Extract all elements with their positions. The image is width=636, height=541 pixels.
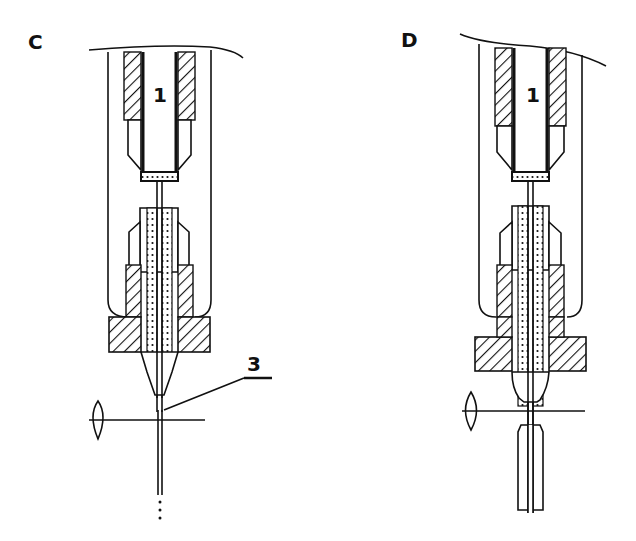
label-1-c: 1 — [153, 83, 167, 107]
label-3-c: 3 — [247, 352, 261, 376]
panel-d: 1 — [460, 34, 606, 513]
diagram-canvas: 1 3 — [0, 0, 636, 541]
label-1-d: 1 — [526, 83, 540, 107]
panel-c: 1 3 — [89, 46, 272, 520]
